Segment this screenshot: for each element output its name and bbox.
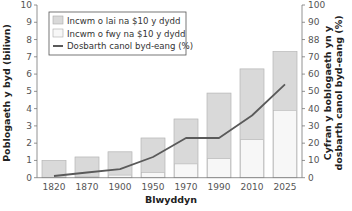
y-tick-label-right: 40	[308, 104, 320, 114]
chart: 0123456789100102030405060708890100182018…	[0, 0, 352, 211]
x-tick-label: 2010	[241, 182, 264, 192]
x-tick-label: 1990	[208, 182, 231, 192]
x-tick-label: 1970	[175, 182, 198, 192]
y-tick-label-right: 90	[308, 17, 320, 27]
bars	[42, 52, 297, 178]
x-tick-label: 1900	[109, 182, 132, 192]
y-tick-label-left: 3	[26, 121, 32, 131]
y-tick-label-right: 50	[308, 86, 320, 96]
chart-canvas: 0123456789100102030405060708890100182018…	[0, 0, 352, 211]
legend-label-below-10: Incwm o lai na $10 y dydd	[67, 16, 180, 26]
legend-label-above-10: Incwm o fwy na $10 y dydd	[67, 29, 185, 39]
x-tick-label: 2025	[274, 182, 297, 192]
y-tick-label-right: 10	[308, 155, 320, 165]
y-tick-label-right: 30	[308, 121, 320, 131]
y-tick-label-left: 0	[26, 173, 32, 183]
y-axis-title-left: Poblogaeth y byd (biliwn)	[1, 24, 12, 162]
bar-above-10-1950	[141, 173, 164, 178]
y-tick-label-left: 6	[26, 69, 32, 79]
y-tick-label-right: 100	[308, 0, 325, 10]
y-tick-label-right: 0	[308, 173, 314, 183]
x-tick-label: 1870	[76, 182, 99, 192]
y-axis-title-right-line2: dosbarth canol byd-eang (%)	[333, 15, 344, 170]
bar-above-10-1990	[207, 159, 230, 178]
legend-label-line: Dosbarth canol byd-eang (%)	[67, 41, 193, 51]
y-tick-label-left: 7	[26, 52, 32, 62]
y-tick-label-left: 5	[26, 86, 32, 96]
y-tick-label-left: 10	[21, 0, 33, 10]
y-tick-label-left: 1	[26, 155, 32, 165]
bar-total-1870	[75, 157, 99, 178]
y-tick-label-left: 4	[26, 104, 32, 114]
y-tick-label-left: 2	[26, 138, 32, 148]
x-axis-title: Blwyddyn	[145, 194, 197, 205]
bar-above-10-2010	[240, 140, 263, 178]
x-tick-label: 1950	[142, 182, 165, 192]
x-tick-label: 1820	[43, 182, 66, 192]
y-tick-label-right: 70	[308, 52, 320, 62]
y-tick-label-right: 20	[308, 138, 320, 148]
y-tick-label-left: 8	[26, 35, 32, 45]
y-tick-label-right: 88	[308, 35, 320, 45]
bar-above-10-2025	[273, 110, 296, 177]
y-tick-label-right: 60	[308, 69, 320, 79]
legend: Incwm o lai na $10 y dydd Incwm o fwy na…	[49, 12, 193, 55]
legend-swatch-below-10	[53, 16, 63, 24]
legend-swatch-above-10	[53, 29, 63, 37]
bar-above-10-1970	[174, 164, 197, 178]
bar-total-1900	[108, 152, 132, 178]
y-axis-title-right-line1: Cyfran y boblogaeth yn y	[322, 25, 333, 160]
y-tick-label-left: 9	[26, 17, 32, 27]
